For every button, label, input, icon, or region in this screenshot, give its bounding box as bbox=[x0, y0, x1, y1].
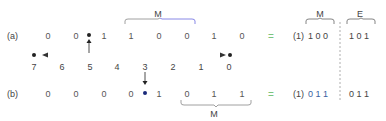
result-mantissa-brace bbox=[305, 18, 335, 26]
right-end-dot bbox=[228, 53, 232, 57]
binary-point-dot-b bbox=[143, 91, 147, 95]
position-6: 6 bbox=[57, 62, 67, 72]
row-a-bit-5: 1 bbox=[99, 32, 109, 41]
row-b-bit-6: 0 bbox=[71, 90, 81, 99]
row-b-result-exponent: 0 1 1 bbox=[349, 90, 369, 99]
row-a-label: (a) bbox=[7, 32, 18, 41]
position-4: 4 bbox=[112, 62, 122, 72]
row-a-equals: = bbox=[268, 32, 274, 41]
position-1: 1 bbox=[196, 62, 206, 72]
binary-point-dot bbox=[87, 33, 91, 37]
position-2: 2 bbox=[168, 62, 178, 72]
row-a-bit-3: 0 bbox=[154, 32, 164, 41]
row-a-bit-0: 0 bbox=[237, 32, 247, 41]
row-a-mantissa-brace bbox=[124, 18, 196, 26]
row-a-bit-6: 0 bbox=[71, 32, 81, 41]
row-b-bit-7: 0 bbox=[43, 90, 53, 99]
row-b-mantissa-label: M bbox=[207, 109, 221, 119]
position-3: 3 bbox=[140, 62, 150, 72]
row-a-bit-4: 1 bbox=[126, 32, 136, 41]
row-b-bit-1: 1 bbox=[209, 90, 219, 99]
row-b-bit-2: 0 bbox=[182, 90, 192, 99]
row-a-result-mantissa: 1 0 0 bbox=[308, 32, 328, 41]
mantissa-exponent-separator bbox=[339, 22, 341, 100]
down-arrow-icon bbox=[142, 72, 148, 86]
row-a-implicit-bit: (1) bbox=[293, 32, 304, 41]
row-b-bit-4: 0 bbox=[126, 90, 136, 99]
position-5: 5 bbox=[85, 62, 95, 72]
row-b-mantissa-brace bbox=[180, 100, 252, 108]
row-b-equals: = bbox=[268, 90, 274, 99]
row-b-implicit-bit: (1) bbox=[293, 90, 304, 99]
position-0: 0 bbox=[224, 62, 234, 72]
result-exponent-brace bbox=[346, 18, 376, 26]
row-b-result-mantissa: 0 1 1 bbox=[308, 90, 328, 99]
left-end-dot bbox=[32, 53, 36, 57]
row-b-bit-3: 1 bbox=[154, 90, 164, 99]
shift-range-double-arrow bbox=[42, 51, 226, 59]
row-a-bit-1: 1 bbox=[209, 32, 219, 41]
position-7: 7 bbox=[29, 62, 39, 72]
row-b-bit-5: 0 bbox=[99, 90, 109, 99]
row-a-result-exponent: 1 0 1 bbox=[349, 32, 369, 41]
row-b-bit-0: 1 bbox=[237, 90, 247, 99]
row-a-bit-7: 0 bbox=[43, 32, 53, 41]
row-b-label: (b) bbox=[7, 90, 18, 99]
row-a-bit-2: 0 bbox=[182, 32, 192, 41]
